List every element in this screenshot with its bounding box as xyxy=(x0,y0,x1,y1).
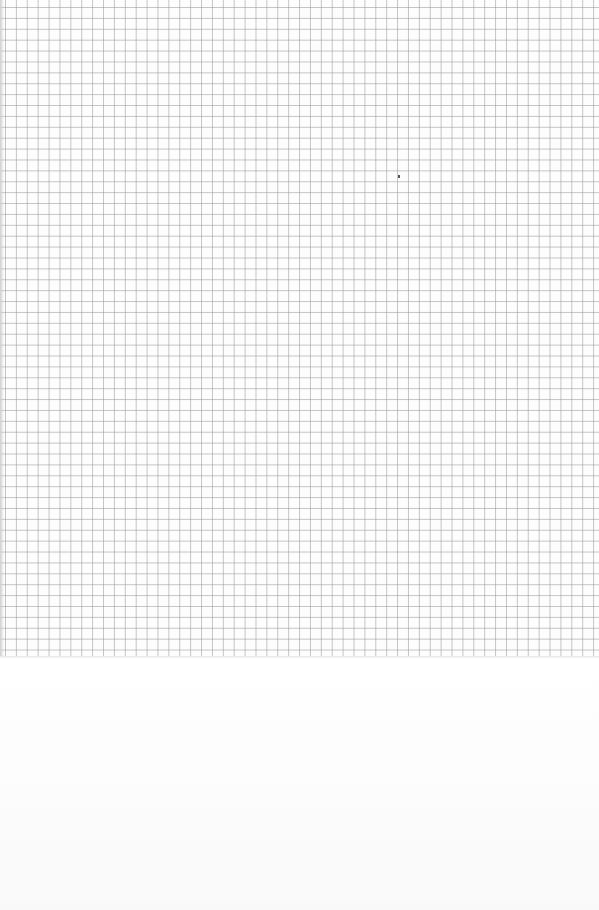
ink-speck xyxy=(398,175,400,178)
paper-left-edge-shadow xyxy=(0,0,4,658)
blank-paper-area xyxy=(0,658,599,910)
graph-paper-grid xyxy=(0,0,599,658)
